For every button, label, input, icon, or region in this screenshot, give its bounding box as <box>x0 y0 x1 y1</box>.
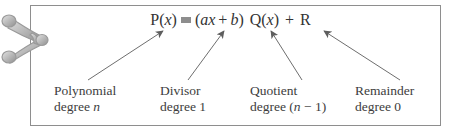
label-remainder: Remainder degree 0 <box>355 83 414 114</box>
label-quotient-line1: Quotient <box>250 83 297 98</box>
label-polynomial-degree-text: degree <box>54 99 93 114</box>
equals-symbol <box>181 17 191 23</box>
label-quotient-degree-suffix: − 1) <box>301 99 327 114</box>
label-polynomial-degree-value: n <box>93 99 100 114</box>
figure-container: P(x)(ax+b)Q(x)+R Polynomial degree n Div… <box>0 0 461 136</box>
label-divisor-line1: Divisor <box>160 83 201 98</box>
label-polynomial-line2: degree n <box>54 99 116 115</box>
label-remainder-line1: Remainder <box>355 83 414 98</box>
equation-expression: P(x)(ax+b)Q(x)+R <box>0 11 461 29</box>
label-quotient-degree-text: degree ( <box>250 99 294 114</box>
equation-lhs-function: P <box>150 11 159 28</box>
label-quotient-line2: degree (n − 1) <box>250 99 326 115</box>
label-remainder-degree-text: degree 0 <box>355 99 401 114</box>
label-divisor-line2: degree 1 <box>160 99 206 115</box>
label-polynomial: Polynomial degree n <box>54 83 116 114</box>
label-divisor: Divisor degree 1 <box>160 83 206 114</box>
divisor-close-paren: ) <box>238 11 243 28</box>
label-quotient-degree-value: n <box>294 99 301 114</box>
remainder-term: R <box>300 11 311 28</box>
quotient-variable: x <box>267 11 274 28</box>
label-remainder-line2: degree 0 <box>355 99 414 115</box>
divisor-variable: x <box>208 11 215 28</box>
equation-lhs-variable: x <box>164 11 171 28</box>
equation-lhs-close-paren: ) <box>172 11 177 28</box>
equation-plus-operator: + <box>285 11 294 28</box>
label-polynomial-line1: Polynomial <box>54 83 116 98</box>
label-quotient: Quotient degree (n − 1) <box>250 83 326 114</box>
quotient-function: Q <box>250 11 262 28</box>
label-divisor-degree-text: degree 1 <box>160 99 206 114</box>
quotient-close-paren: ) <box>274 11 279 28</box>
divisor-plus-operator: + <box>218 11 227 28</box>
